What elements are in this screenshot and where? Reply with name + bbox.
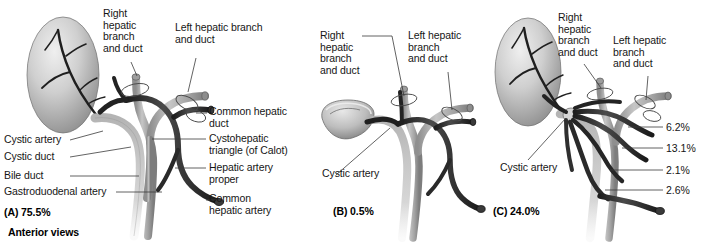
gallbladder-c — [495, 18, 561, 126]
label-cystic-artery-a: Cystic artery — [4, 134, 61, 146]
label-left-hepatic-b: Left hepatic branch and duct — [408, 30, 461, 65]
cystic-artery-a — [114, 78, 126, 100]
label-left-hepatic-c: Left hepatic branch and duct — [613, 35, 666, 70]
percentage-2-c: 13.1% — [666, 142, 696, 154]
percentage-3-c: 2.1% — [666, 164, 690, 176]
left-duct-stump-b — [467, 104, 473, 112]
caption-anterior-views: Anterior views — [8, 226, 79, 238]
anatomy-figure: Right hepatic branch and duct Left hepat… — [0, 0, 710, 244]
caption-panel-c: (C) 24.0% — [493, 205, 539, 217]
left-artery-branch-b — [436, 121, 472, 128]
left-duct-stump-c — [665, 92, 671, 100]
caption-panel-a: (A) 75.5% — [4, 206, 50, 218]
left-artery-stump-b — [470, 118, 476, 125]
left-duct-stump-a — [202, 92, 208, 100]
artery-stump-b — [477, 206, 485, 213]
lower-artery-branch-b — [428, 160, 450, 194]
percentage-4-c: 2.6% — [666, 184, 690, 196]
label-right-hepatic-a: Right hepatic branch and duct — [103, 8, 142, 54]
cystic-duct-a — [95, 118, 140, 236]
label-right-hepatic-c: Right hepatic branch and duct — [558, 12, 597, 58]
label-common-hepatic-artery-a: Common hepatic artery — [209, 193, 271, 216]
right-hepatic-artery-a — [100, 100, 126, 112]
label-left-hepatic-a: Left hepatic branch and duct — [175, 22, 262, 45]
percentage-1-c: 6.2% — [666, 121, 690, 133]
label-hepatic-artery-proper-a: Hepatic artery proper — [209, 162, 273, 185]
label-cystic-duct-a: Cystic duct — [4, 151, 54, 163]
gastroduodenal-artery-a — [158, 150, 178, 190]
label-common-hepatic-duct-a: Common hepatic duct — [209, 106, 287, 129]
gallbladder-b — [322, 100, 374, 139]
label-cystic-artery-b: Cystic artery — [322, 168, 379, 180]
right-hepatic-artery-b — [400, 92, 402, 122]
right-duct-stump-a — [132, 74, 140, 80]
caption-panel-b: (B) 0.5% — [333, 205, 374, 217]
gallbladder-a — [27, 17, 99, 133]
common-hepatic-duct-a — [147, 140, 150, 198]
label-bile-duct-a: Bile duct — [4, 170, 43, 182]
label-gastroduodenal-artery-a: Gastroduodenal artery — [4, 186, 106, 198]
artery-stump-c — [656, 208, 665, 215]
label-cystohepatic-triangle-a: Cystohepatic triangle (of Calot) — [209, 133, 288, 156]
label-cystic-artery-c: Cystic artery — [500, 162, 557, 174]
label-right-hepatic-b: Right hepatic branch and duct — [320, 30, 359, 76]
